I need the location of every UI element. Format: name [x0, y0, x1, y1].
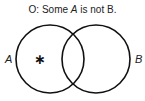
venn-diagram: [0, 0, 145, 101]
existence-marker-icon: ∗: [34, 51, 46, 67]
label-b: B: [135, 53, 142, 65]
circle-a: [16, 25, 84, 93]
label-a: A: [5, 53, 12, 65]
circle-b: [62, 25, 130, 93]
